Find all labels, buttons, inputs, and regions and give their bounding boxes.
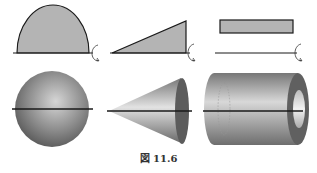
- panel-cone: [107, 78, 192, 144]
- panel-hollow-cylinder: [203, 73, 309, 145]
- panel-triangle: [110, 21, 195, 61]
- panel-rectangle: [215, 20, 302, 61]
- rotation-arrow-icon: [92, 45, 99, 61]
- panel-semicircle: [13, 5, 99, 61]
- figure-caption: 図 11.6: [0, 150, 317, 165]
- panel-sphere: [12, 71, 93, 147]
- solids-of-revolution-diagram: [0, 0, 317, 150]
